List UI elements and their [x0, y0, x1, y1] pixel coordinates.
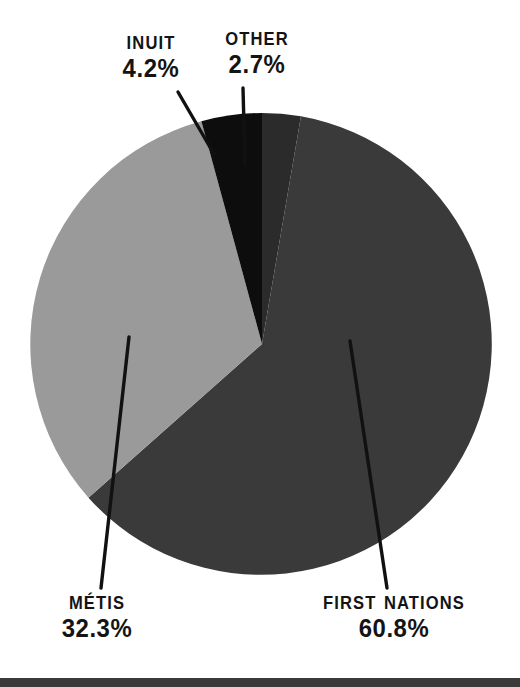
- pie-label-other-name: Other: [203, 24, 312, 50]
- pie-label-first-nations-value: 60.8%: [291, 615, 497, 642]
- footer-bar: [0, 678, 520, 687]
- pie-label-metis-name: Métis: [28, 588, 166, 614]
- pie-label-other-value: 2.7%: [203, 51, 312, 78]
- pie-label-metis-value: 32.3%: [28, 615, 166, 642]
- pie-chart-figure: Inuit 4.2% Other 2.7% Métis 32.3% First …: [0, 0, 520, 687]
- leader-line-other: [243, 88, 245, 165]
- pie-chart-svg: [0, 0, 520, 687]
- pie-label-first-nations: First Nations 60.8%: [282, 588, 506, 641]
- pie-label-first-nations-name: First Nations: [291, 588, 497, 614]
- pie-label-inuit-value: 4.2%: [100, 55, 201, 82]
- pie-label-inuit: Inuit 4.2%: [96, 28, 206, 81]
- pie-label-metis: Métis 32.3%: [22, 588, 172, 641]
- pie-label-inuit-name: Inuit: [100, 28, 201, 54]
- pie-label-other: Other 2.7%: [198, 24, 316, 77]
